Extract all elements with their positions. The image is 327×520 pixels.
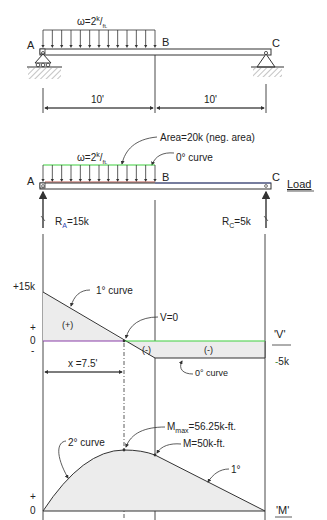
svg-text:B: B <box>162 171 169 183</box>
svg-text:+: + <box>30 491 36 502</box>
point-b-label: B <box>162 36 169 48</box>
x-dimension-label: x =7.5' <box>68 358 98 369</box>
shear-max-label: +15k <box>13 281 36 292</box>
moment-diagram-title: 'M' <box>276 504 289 516</box>
svg-text:C: C <box>272 171 280 183</box>
mmax-label: Mmax=56.25k-ft. <box>167 421 236 434</box>
load-intensity-label-2: ω=2k/ft. <box>77 151 108 165</box>
load-arrow-set <box>41 30 156 48</box>
svg-text:A: A <box>27 175 35 187</box>
svg-text:+: + <box>30 322 36 333</box>
svg-text:(-): (-) <box>142 345 151 355</box>
svg-text:10': 10' <box>91 94 104 105</box>
beam-analysis-diagram: ω=2k/ft. A B C <box>0 0 327 520</box>
beam-member <box>40 49 271 55</box>
moment-diagram: Mmax=56.25k-ft. M=50k-ft. 2° curve 1° + … <box>30 421 292 517</box>
reaction-c-label: RC=5k <box>222 216 252 229</box>
second-degree-curve-note: 2° curve <box>68 437 105 448</box>
first-degree-note: 1° <box>231 464 241 475</box>
area-note: Area=20k (neg. area) <box>160 132 255 143</box>
dimension-bc: 10' <box>157 94 264 108</box>
reaction-a-label: RA=15k <box>55 216 90 229</box>
load-diagram-title: Load <box>287 178 311 190</box>
svg-text:-: - <box>31 345 34 356</box>
svg-text:10': 10' <box>204 94 217 105</box>
svg-text:(+): (+) <box>62 320 73 330</box>
mb-label: M=50k-ft. <box>183 438 225 449</box>
shear-diagram-title: 'V' <box>274 328 286 340</box>
point-c-label: C <box>272 37 280 49</box>
zero-degree-curve-note: 0° curve <box>176 152 213 163</box>
flat-curve-note: 0° curve <box>195 368 228 378</box>
svg-text:(-): (-) <box>204 345 213 355</box>
load-intensity-label: ω=2k/ft. <box>77 15 108 29</box>
svg-text:0: 0 <box>30 505 36 516</box>
first-degree-curve-note: 1° curve <box>96 285 133 296</box>
shear-min-label: -5k <box>275 356 290 367</box>
v-zero-note: V=0 <box>160 312 179 323</box>
beam-schematic: ω=2k/ft. A B C <box>27 15 284 113</box>
dimension-ab: 10' <box>45 94 153 108</box>
beam-member-load <box>40 183 271 189</box>
point-a-label: A <box>27 39 35 51</box>
